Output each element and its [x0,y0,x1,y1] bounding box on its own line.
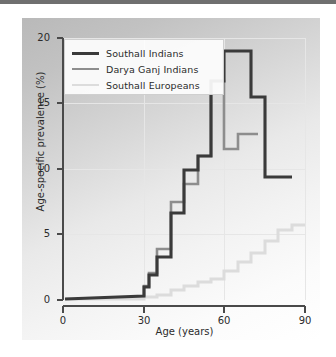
y-tick-marks [57,38,63,300]
x-tick-label-60: 60 [209,315,239,326]
x-tick-label-90: 90 [290,315,320,326]
legend-label-southall-indians: Southall Indians [106,48,184,59]
legend-label-southall-europeans: Southall Europeans [106,80,200,91]
legend-swatch-line-icon [72,68,99,70]
series-line-darya-ganj-indians [144,81,258,296]
y-axis-title: Age-specific prevalence (%) [35,32,46,252]
x-tick-label-0: 0 [48,315,78,326]
legend-item-southall-indians: Southall Indians [72,45,217,61]
series-line-southall-europeans [66,225,305,299]
legend-item-southall-europeans: Southall Europeans [72,77,217,93]
x-tick-marks [63,306,305,313]
legend-swatch-line-icon [72,84,99,86]
x-axis-title: Age (years) [63,326,306,337]
legend-item-darya-ganj-indians: Darya Ganj Indians [72,61,217,77]
legend-label-darya-ganj-indians: Darya Ganj Indians [106,64,198,75]
x-tick-label-30: 30 [129,315,159,326]
legend-swatch-line-icon [72,52,99,55]
figure-container: 20 15 10 5 0 0 30 60 90 Age-specific pre… [0,0,336,357]
chart-legend: Southall Indians Darya Ganj Indians Sout… [64,39,224,95]
y-tick-label-0: 0 [24,294,50,305]
